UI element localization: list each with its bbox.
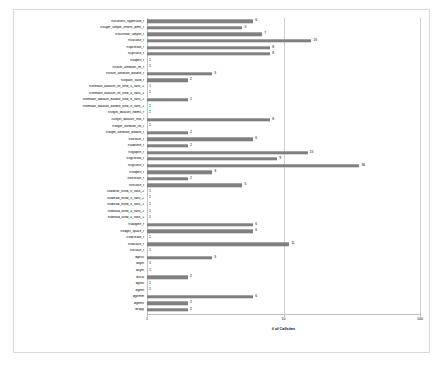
bar-category-label: h5ltget_dataset_ndims_f [24, 111, 147, 114]
bar-category-label: h5screate_simple_f [24, 33, 147, 36]
bar [147, 98, 188, 101]
bar-value-label: 3 [214, 256, 216, 259]
bar [147, 171, 212, 174]
bar-value-label: 8 [272, 118, 274, 121]
bar-category-label: h5pcreate_f [24, 46, 147, 49]
x-axis-title: # of Callsites [147, 327, 420, 331]
bar-category-label: h5ltmake_dataset_double_kind_8_rank_2 [24, 98, 147, 101]
bar-value-label: 1 [149, 210, 151, 213]
bar-value-label: 1 [149, 249, 151, 252]
bar-value-label: 6 [255, 230, 257, 233]
bar-category-label: h5fopen_f [24, 171, 147, 174]
x-tick-label: 1 [146, 318, 148, 322]
bar-value-label: 1 [149, 105, 151, 108]
bar [147, 151, 308, 154]
bar-category-label: dgetrf [24, 289, 147, 292]
bar-category-label: h5lexists_f [24, 138, 147, 141]
bar-value-label: 2 [190, 276, 192, 279]
bar [147, 164, 359, 167]
bar-category-label: h5dread_ikind_4_rank_1 [24, 216, 147, 219]
bar-value-label: 3 [214, 171, 216, 174]
bar-category-label: h5ltset_attribute_double_f [24, 72, 147, 75]
gridline-100 [420, 18, 421, 314]
bar-category-label: h5close_f [24, 249, 147, 252]
bar-value-label: 1 [149, 92, 151, 95]
bar-category-label: h5ltmake_dataset_int_kind_4_rank_1 [24, 92, 147, 95]
bar-value-label: 3 [214, 72, 216, 75]
x-tick-label: 10 [282, 318, 286, 322]
bar [147, 20, 253, 23]
bar-category-label: dscal [24, 276, 147, 279]
bar-category-label: h5dread_rkind_8_rank_2 [24, 197, 147, 200]
bar-value-label: 1 [149, 236, 151, 239]
x-tick-label: 100 [417, 318, 423, 322]
bar-value-label: 1 [149, 59, 151, 62]
bar-category-label: h5gclose_f [24, 164, 147, 167]
bar-value-label: 8 [272, 46, 274, 49]
bar-category-label: h5sselect_hyperslab_f [24, 20, 147, 23]
bar-value-label: 1 [149, 190, 151, 193]
bar-value-label: 15 [310, 151, 314, 154]
bar [147, 157, 277, 160]
bar [147, 52, 270, 55]
bar-category-label: h5ltmake_dataset_double_kind_8_rank_1 [24, 105, 147, 108]
bar-value-label: 1 [149, 203, 151, 206]
bar-value-label: 1 [149, 125, 151, 128]
bar [147, 177, 188, 180]
bar-value-label: 2 [190, 131, 192, 134]
bar-value-label: 1 [149, 289, 151, 292]
bar-category-label: h5sget_simple_extent_dims_f [24, 26, 147, 29]
bar-track: 2 [147, 307, 420, 314]
bar-category-label: h5dget_space_f [24, 230, 147, 233]
bar [147, 26, 242, 29]
bar-category-label: h5dwrite_rkind_8_rank_2 [24, 190, 147, 193]
bar [147, 72, 212, 75]
bar-value-label: 8 [272, 52, 274, 55]
bar-value-label: 1 [149, 85, 151, 88]
bar [147, 46, 270, 49]
bar [147, 33, 262, 36]
bar [147, 223, 253, 226]
bar-value-label: 1 [149, 197, 151, 200]
bar-rows: h5sselect_hyperslab_f6h5sget_simple_exte… [24, 18, 420, 314]
bar-value-label: 6 [255, 20, 257, 23]
bar-category-label: h5ltset_attribute_int_f [24, 66, 147, 69]
plot-area: h5sselect_hyperslab_f6h5sget_simple_exte… [24, 18, 420, 344]
bar [147, 118, 270, 121]
bar-value-label: 9 [279, 157, 281, 160]
bar-value-label: 5 [244, 184, 246, 187]
bar-category-label: h5ltget_attribute_double_f [24, 131, 147, 134]
bar-value-label: 1 [149, 216, 151, 219]
bar-value-label: 1 [149, 66, 151, 69]
bar [147, 184, 242, 187]
bar-category-label: h5gopen_f [24, 151, 147, 154]
bar-category-label: h5pclose_f [24, 52, 147, 55]
bar-category-label: h5ltget_attribute_int_f [24, 125, 147, 128]
bar-value-label: 1 [149, 269, 151, 272]
x-axis: # of Callsites 110100 [147, 314, 420, 344]
bar-category-label: dgetri [24, 282, 147, 285]
bar-category-label: dsytrf [24, 269, 147, 272]
bar-category-label: h5ltget_dataset_info_f [24, 118, 147, 121]
bar-category-label: dgemv [24, 302, 147, 305]
bar-category-label: h5dcreate_f [24, 236, 147, 239]
bar-category-label: h5dread_rkind_8_rank_1 [24, 203, 147, 206]
bar [147, 243, 289, 246]
bar-category-label: h5open_f [24, 59, 147, 62]
bar-value-label: 11 [291, 243, 294, 246]
bar-value-label: 1 [149, 111, 151, 114]
bar-value-label: 6 [255, 295, 257, 298]
bar-category-label: dcopy [24, 308, 147, 311]
bar [147, 131, 188, 134]
bar [147, 295, 253, 298]
bar [147, 144, 188, 147]
bar [147, 302, 188, 305]
bar-value-label: 16 [313, 39, 317, 42]
bar-category-label: h5fcreate_f [24, 177, 147, 180]
bar-category-label: dgesv [24, 256, 147, 259]
bar-value-label: 7 [264, 33, 266, 36]
bar-value-label: 2 [190, 302, 192, 305]
chart-frame: h5sselect_hyperslab_f6h5sget_simple_exte… [13, 9, 430, 353]
bar-value-label: 1 [149, 262, 151, 265]
bar-category-label: h5dopen_f [24, 223, 147, 226]
